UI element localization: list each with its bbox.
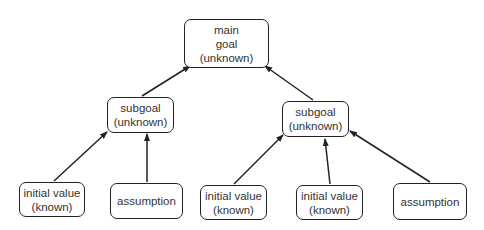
edge-subright-main (265, 66, 313, 100)
node-text: assumption (401, 195, 460, 209)
node-text: (unknown) (114, 115, 168, 129)
edge-initleft-subleft (54, 132, 107, 181)
node-text: (unknown) (289, 119, 343, 133)
node-text: (known) (32, 200, 73, 214)
edge-initr2-subright (325, 139, 330, 184)
node-text: goal (216, 37, 238, 51)
node-text: initial value (301, 189, 358, 203)
edge-subleft-main (142, 66, 190, 96)
subgoal-left-node: subgoal (unknown) (107, 97, 174, 133)
subgoal-right-node: subgoal (unknown) (282, 101, 349, 137)
assumption-right-node: assumption (393, 183, 467, 220)
node-text: assumption (117, 194, 176, 208)
node-text: subgoal (120, 101, 160, 115)
main-goal-node: main goal (unknown) (184, 19, 269, 68)
node-text: (known) (309, 203, 350, 217)
node-text: main (214, 23, 239, 37)
node-text: initial value (205, 189, 262, 203)
node-text: (unknown) (200, 51, 254, 65)
initial-value-left-node: initial value (known) (19, 182, 85, 217)
node-text: (known) (213, 203, 254, 217)
edge-assumpright-subright (350, 131, 430, 182)
initial-value-right-1-node: initial value (known) (200, 185, 267, 220)
initial-value-right-2-node: initial value (known) (296, 185, 363, 220)
edge-initr1-subright (234, 135, 283, 184)
node-text: initial value (24, 186, 81, 200)
node-text: subgoal (295, 105, 335, 119)
assumption-left-node: assumption (110, 183, 183, 219)
